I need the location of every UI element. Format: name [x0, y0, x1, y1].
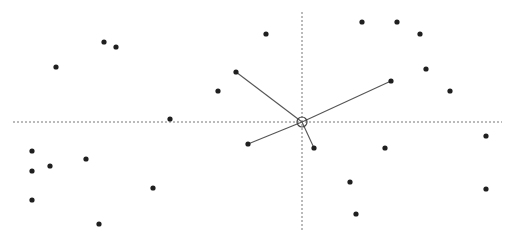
data-point [263, 31, 268, 36]
data-point [113, 44, 118, 49]
data-point [447, 88, 452, 93]
data-point [382, 145, 387, 150]
data-point [233, 69, 238, 74]
data-point [96, 221, 101, 226]
data-point [483, 186, 488, 191]
data-point [29, 148, 34, 153]
data-point [29, 197, 34, 202]
data-point [417, 31, 422, 36]
data-points [29, 19, 488, 226]
data-point [167, 116, 172, 121]
data-point [423, 66, 428, 71]
data-point [483, 133, 488, 138]
neighbor-link [248, 122, 302, 144]
neighbor-links [236, 72, 391, 148]
neighbor-link [302, 81, 391, 122]
neighbor-link [302, 122, 314, 148]
data-point [394, 19, 399, 24]
data-point [150, 185, 155, 190]
data-point [388, 78, 393, 83]
data-point [347, 179, 352, 184]
nearest-neighbor-diagram [0, 0, 516, 244]
data-point [359, 19, 364, 24]
data-point [215, 88, 220, 93]
neighbor-link [236, 72, 302, 122]
data-point [311, 145, 316, 150]
data-point [101, 39, 106, 44]
data-point [245, 141, 250, 146]
data-point [53, 64, 58, 69]
data-point [29, 168, 34, 173]
data-point [47, 163, 52, 168]
data-point [83, 156, 88, 161]
data-point [353, 211, 358, 216]
